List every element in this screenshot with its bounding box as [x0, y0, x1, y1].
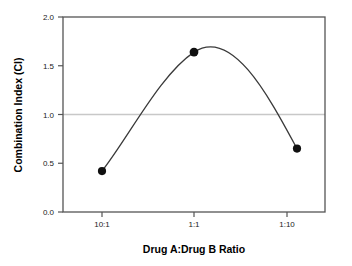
x-axis-ticks — [102, 212, 287, 217]
y-tick-label-0-5: 0.5 — [43, 159, 55, 168]
x-tick-label-1-1: 1:1 — [188, 220, 200, 229]
y-tick-label-2-0: 2.0 — [43, 13, 55, 22]
y-tick-label-1-5: 1.5 — [43, 62, 55, 71]
x-tick-label-1-10: 1:10 — [279, 220, 295, 229]
data-point-10-1 — [98, 167, 106, 175]
y-axis-title: Combination Index (CI) — [12, 58, 24, 173]
combination-index-line-chart: 2.0 1.5 1.0 0.5 0.0 10:1 1:1 1:10 Combin… — [0, 0, 352, 266]
chart-figure: 2.0 1.5 1.0 0.5 0.0 10:1 1:1 1:10 Combin… — [0, 0, 352, 266]
y-axis-ticks — [58, 17, 63, 212]
data-point-1-10 — [293, 145, 301, 153]
y-tick-label-0-0: 0.0 — [43, 208, 55, 217]
x-tick-label-10-1: 10:1 — [94, 220, 110, 229]
y-tick-label-1-0: 1.0 — [43, 111, 55, 120]
data-point-1-1 — [190, 48, 199, 57]
x-axis-title: Drug A:Drug B Ratio — [143, 243, 245, 255]
